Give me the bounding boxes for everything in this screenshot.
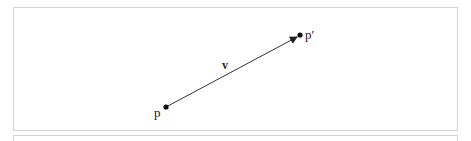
- vector-diagram: p p′ v: [0, 0, 471, 141]
- point-p-prime-label: p′: [305, 27, 315, 42]
- vector-v-arrow: [166, 37, 297, 107]
- vector-v-label: v: [222, 58, 228, 72]
- point-p-prime-dot: [297, 32, 302, 37]
- point-p-label: p: [154, 105, 161, 120]
- point-p-dot: [163, 104, 168, 109]
